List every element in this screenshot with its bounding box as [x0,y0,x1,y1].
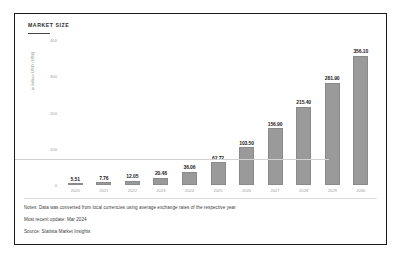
bar-rect[interactable] [96,182,111,185]
x-tick-label: 2021 [99,188,108,193]
bar-column[interactable]: 7.762021 [90,40,119,185]
bar-value-label: 7.76 [99,175,108,181]
bar-rect[interactable] [153,178,168,185]
y-tick-label: 100 [37,146,57,151]
bar-column[interactable]: 20.482023 [147,40,176,185]
bar-value-label: 36.06 [183,164,195,170]
x-tick-label: 2026 [242,188,251,193]
notes-block: Notes: Data was converted from local cur… [24,198,377,241]
bar-column[interactable]: 36.062024 [175,40,204,185]
bar-value-label: 12.05 [126,173,138,179]
notes-divider [24,198,377,199]
bar-value-label: 356.10 [353,48,368,54]
y-tick-label: 400 [37,38,57,43]
bar-rect[interactable] [325,83,340,185]
y-axis-label: in billion USD (US$) [30,10,35,90]
bar-value-label: 20.48 [155,170,167,176]
bar-value-label: 62.72 [212,155,224,161]
bar-rect[interactable] [125,181,140,185]
y-tick-label: 200 [37,110,57,115]
y-tick-label: 0 [37,183,57,188]
bar-rect[interactable] [239,147,254,185]
bar-value-label: 5.51 [71,176,80,182]
x-tick-label: 2020 [71,188,80,193]
bar-value-label: 281.90 [325,75,340,81]
bar-column[interactable]: 12.052022 [118,40,147,185]
bar-rect[interactable] [268,128,283,185]
note-source: Source: Statista Market Insights [24,229,377,234]
chart-card: MARKET SIZE in billion USD (US$) 0100200… [14,13,387,245]
note-conversion: Notes: Data was converted from local cur… [24,205,377,210]
bar-value-label: 215.40 [296,99,311,105]
x-tick-label: 2030 [356,188,365,193]
bar-column[interactable]: 215.402028 [289,40,318,185]
bar-rect[interactable] [211,162,226,185]
bar-series: 5.5120207.76202112.05202220.48202336.062… [61,40,375,185]
plot-area: in billion USD (US$) 0100200300400 5.512… [61,40,375,185]
bar-column[interactable]: 62.722025 [204,40,233,185]
x-axis-line [15,159,329,160]
x-tick-label: 2028 [299,188,308,193]
x-tick-label: 2024 [185,188,194,193]
y-tick-label: 300 [37,74,57,79]
bar-rect[interactable] [353,56,368,185]
x-tick-label: 2027 [271,188,280,193]
x-tick-label: 2029 [328,188,337,193]
bar-rect[interactable] [68,183,83,185]
x-tick-label: 2023 [156,188,165,193]
bar-value-label: 156.90 [268,121,283,127]
bar-rect[interactable] [296,107,311,185]
bar-column[interactable]: 156.902027 [261,40,290,185]
bar-column[interactable]: 103.502026 [232,40,261,185]
x-tick-label: 2025 [213,188,222,193]
bar-rect[interactable] [182,172,197,185]
bar-column[interactable]: 356.102030 [346,40,375,185]
note-update: Most recent update: Mar 2024 [24,217,377,222]
bar-column[interactable]: 281.902029 [318,40,347,185]
bar-value-label: 103.50 [239,140,254,146]
bar-column[interactable]: 5.512020 [61,40,90,185]
x-tick-label: 2022 [128,188,137,193]
